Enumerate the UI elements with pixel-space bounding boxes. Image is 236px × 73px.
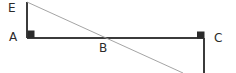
vertex-label-e: E [8, 2, 16, 14]
right-angle-marker-C [197, 32, 205, 39]
right-angle-marker-A [28, 31, 35, 39]
geometry-diagram: E A B C [0, 0, 236, 73]
vertex-label-b: B [99, 42, 107, 54]
vertex-label-c: C [214, 32, 222, 44]
geometry-canvas [0, 0, 236, 73]
vertex-label-a: A [9, 31, 17, 43]
